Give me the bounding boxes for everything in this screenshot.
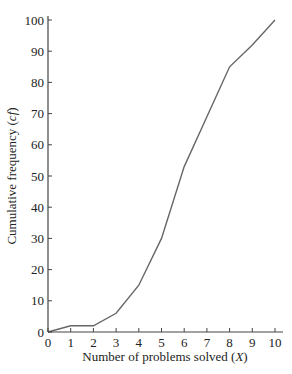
x-tick-label: 8 bbox=[226, 335, 233, 350]
y-tick-label: 40 bbox=[31, 200, 44, 215]
y-axis-label: Cumulative frequency (cf) bbox=[4, 107, 19, 244]
y-tick-label: 100 bbox=[25, 13, 45, 28]
cf-line bbox=[48, 20, 275, 332]
x-tick-label: 7 bbox=[204, 335, 211, 350]
y-tick-label: 60 bbox=[31, 137, 44, 152]
cumulative-frequency-chart: 0102030405060708090100 012345678910 Numb… bbox=[0, 0, 292, 374]
y-axis: 0102030405060708090100 bbox=[25, 13, 53, 340]
x-tick-label: 3 bbox=[113, 335, 120, 350]
y-tick-label: 70 bbox=[31, 106, 44, 121]
y-tick-label: 0 bbox=[38, 325, 45, 340]
x-axis: 012345678910 bbox=[45, 328, 283, 350]
x-axis-label: Number of problems solved (X) bbox=[82, 349, 247, 364]
x-tick-label: 5 bbox=[158, 335, 165, 350]
y-tick-label: 90 bbox=[31, 44, 44, 59]
x-tick-label: 0 bbox=[45, 335, 52, 350]
x-tick-label: 1 bbox=[67, 335, 74, 350]
x-tick-label: 10 bbox=[269, 335, 282, 350]
y-tick-label: 20 bbox=[31, 262, 44, 277]
x-tick-label: 2 bbox=[90, 335, 97, 350]
x-tick-label: 9 bbox=[249, 335, 256, 350]
x-tick-label: 4 bbox=[136, 335, 143, 350]
y-tick-label: 50 bbox=[31, 169, 44, 184]
y-tick-label: 30 bbox=[31, 231, 44, 246]
plot-area bbox=[48, 20, 275, 332]
y-tick-label: 80 bbox=[31, 75, 44, 90]
y-tick-label: 10 bbox=[31, 293, 44, 308]
x-tick-label: 6 bbox=[181, 335, 188, 350]
